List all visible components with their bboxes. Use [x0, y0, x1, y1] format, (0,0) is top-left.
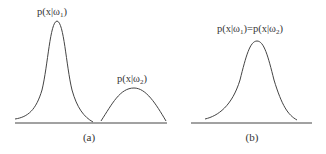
curve-omega2	[101, 88, 166, 121]
caption-b: (b)	[246, 131, 259, 144]
figure: p(x|ω1) p(x|ω2) (a) p(x|ω1)=p(x|ω2) (b)	[0, 0, 326, 154]
label-p-x-omega2: p(x|ω2)	[117, 73, 148, 86]
panel-b: p(x|ω1)=p(x|ω2) (b)	[191, 23, 312, 144]
curve-omega1	[15, 21, 93, 122]
panel-a: p(x|ω1) p(x|ω2) (a)	[15, 6, 167, 144]
curve-equal	[205, 41, 297, 120]
caption-a: (a)	[83, 131, 96, 144]
label-p-x-omega1: p(x|ω1)	[37, 6, 68, 19]
label-equal-likelihood: p(x|ω1)=p(x|ω2)	[217, 23, 283, 36]
